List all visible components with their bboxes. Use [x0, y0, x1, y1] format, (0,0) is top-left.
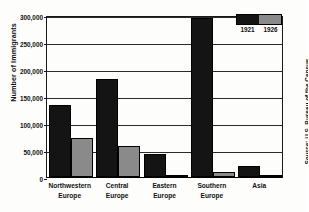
y-axis-tick-label: 300,000	[20, 14, 43, 21]
bar-group	[49, 17, 93, 177]
chart-legend: 1921 1926	[236, 14, 282, 33]
bar-1926-eastern-europe	[166, 175, 188, 177]
y-axis-tick-label: 200,000	[20, 68, 43, 75]
bar-group	[96, 17, 140, 177]
y-axis-tick-mark	[44, 152, 47, 153]
y-axis-tick-mark	[44, 125, 47, 126]
legend-swatch-1921	[237, 15, 259, 24]
plot-area: 050,000100,000150,000200,000250,000300,0…	[46, 16, 283, 178]
bar-group	[144, 17, 188, 177]
category-label-line: Europe	[174, 191, 250, 201]
legend-swatch-1926	[259, 15, 281, 24]
y-axis-title: Number of Immigrants	[9, 0, 18, 128]
legend-label-1926: 1926	[259, 26, 282, 33]
bar-1921-southern-europe	[191, 18, 213, 177]
y-axis-tick-label: 250,000	[20, 41, 43, 48]
y-axis-tick-mark	[44, 44, 47, 45]
category-label-line: Asia	[221, 181, 297, 191]
bar-1921-eastern-europe	[144, 154, 166, 177]
immigration-bar-chart: Number of Immigrants Source: U.S. Bureau…	[0, 0, 308, 212]
y-axis-tick-mark	[44, 71, 47, 72]
bar-1921-asia	[238, 166, 260, 177]
y-axis-tick-label: 50,000	[23, 149, 43, 156]
y-axis-tick-label: 150,000	[20, 95, 43, 102]
legend-label-1921: 1921	[236, 26, 259, 33]
bar-1926-asia	[260, 175, 282, 177]
bar-group	[238, 17, 282, 177]
y-axis-tick-label: 100,000	[20, 122, 43, 129]
y-axis-tick-mark	[44, 17, 47, 18]
chart-source-note: Source: U.S. Bureau of the Census	[304, 37, 309, 187]
bar-1926-southern-europe	[213, 172, 235, 177]
bar-1926-northwestern-europe	[71, 138, 93, 177]
legend-labels: 1921 1926	[236, 26, 282, 33]
bar-1921-northwestern-europe	[49, 105, 71, 177]
y-axis-tick-mark	[44, 98, 47, 99]
x-axis-category-label: Asia	[221, 181, 297, 191]
legend-swatches	[236, 14, 282, 25]
y-axis-tick-mark	[44, 179, 47, 180]
bar-1921-central-europe	[96, 79, 118, 177]
bar-1926-central-europe	[118, 146, 140, 177]
bar-group	[191, 17, 235, 177]
